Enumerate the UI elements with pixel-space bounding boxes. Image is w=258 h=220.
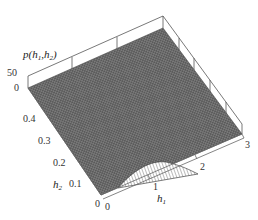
- y-tick-0.3: 0.3: [38, 135, 51, 146]
- y-tick-0: 0: [95, 198, 100, 209]
- y-axis-label: h2: [53, 178, 63, 192]
- x-tick-1: 1: [153, 181, 158, 192]
- surface-plot: p(h1,h2) 50 0 0.4 0.3 0.2 0.1 0 h2 0 1 2…: [0, 0, 258, 220]
- density-surface: [28, 28, 242, 195]
- y-tick-0.4: 0.4: [23, 113, 36, 124]
- x-tick-3: 3: [245, 139, 250, 150]
- z-axis-label: p(h1,h2): [22, 48, 57, 62]
- x-tick-2: 2: [200, 161, 205, 172]
- z-tick-50: 50: [7, 67, 17, 78]
- z-tick-0: 0: [14, 82, 19, 93]
- x-axis-label: h1: [157, 192, 166, 206]
- x-tick-0: 0: [105, 201, 110, 212]
- y-tick-0.1: 0.1: [69, 178, 82, 189]
- y-tick-0.2: 0.2: [53, 157, 66, 168]
